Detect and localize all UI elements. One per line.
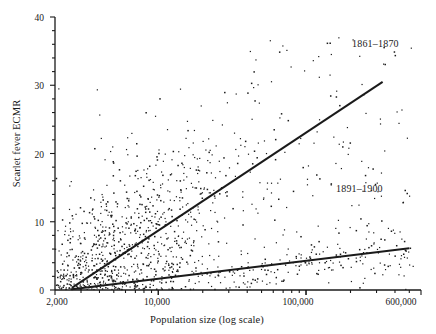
plot-canvas — [0, 0, 436, 334]
x-tick-label-2000: 2,000 — [22, 297, 92, 307]
y-tick-label-10: 10 — [18, 218, 44, 228]
x-axis-label: Population size (log scale) — [150, 314, 264, 325]
x-tick-label-100000: 100,000 — [263, 297, 333, 307]
y-axis-label: Scarlet fever ECMR — [11, 84, 22, 204]
x-tick-label-10000: 10,000 — [122, 297, 192, 307]
series-annotation-1891-1900: 1891–1900 — [336, 183, 383, 194]
scatter-points-layer — [55, 37, 414, 290]
y-tick-label-20: 20 — [18, 150, 44, 160]
y-tick-label-30: 30 — [18, 81, 44, 91]
scatter-plot-figure: Scarlet fever ECMR Population size (log … — [0, 0, 436, 334]
y-tick-label-40: 40 — [18, 13, 44, 23]
y-tick-label-0: 0 — [18, 286, 44, 296]
series-annotation-1861-1870: 1861–1870 — [352, 38, 399, 49]
x-tick-label-600000: 600,000 — [366, 297, 436, 307]
